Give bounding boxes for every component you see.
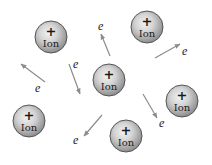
- ion: +Ion: [131, 11, 163, 43]
- electron-label: e: [73, 57, 79, 71]
- electron: e: [98, 19, 110, 56]
- electron-label: e: [159, 116, 165, 130]
- ions-layer: +Ion+Ion+Ion+Ion+Ion+Ion: [13, 11, 198, 152]
- electron-velocity-arrow-icon: [155, 44, 180, 58]
- electron-label: e: [182, 44, 188, 58]
- electron: e: [69, 57, 80, 94]
- electron-velocity-arrow-icon: [143, 94, 157, 118]
- ion: +Ion: [110, 120, 142, 152]
- positive-charge-sign: +: [121, 123, 132, 138]
- ion-electron-diagram: eeeeee +Ion+Ion+Ion+Ion+Ion+Ion: [0, 0, 212, 165]
- electron: e: [73, 115, 102, 147]
- positive-charge-sign: +: [142, 14, 153, 29]
- ion: +Ion: [93, 64, 125, 96]
- electron-velocity-arrow-icon: [101, 34, 110, 56]
- electron: e: [155, 44, 188, 58]
- ion-label: Ion: [21, 122, 38, 133]
- electron: e: [143, 94, 165, 130]
- ion-label: Ion: [43, 38, 60, 49]
- ion-label: Ion: [118, 137, 135, 148]
- ion-label: Ion: [174, 102, 191, 113]
- ion: +Ion: [35, 21, 67, 53]
- electron-velocity-arrow-icon: [84, 115, 102, 136]
- electron: e: [21, 64, 45, 95]
- ion: +Ion: [13, 105, 45, 137]
- positive-charge-sign: +: [46, 24, 57, 39]
- electron-label: e: [73, 133, 79, 147]
- ion-label: Ion: [139, 28, 156, 39]
- positive-charge-sign: +: [177, 88, 188, 103]
- electron-velocity-arrow-icon: [21, 64, 45, 82]
- electron-label: e: [98, 19, 104, 33]
- positive-charge-sign: +: [24, 108, 35, 123]
- positive-charge-sign: +: [104, 67, 115, 82]
- electron-label: e: [35, 81, 41, 95]
- ion-label: Ion: [101, 81, 118, 92]
- ion: +Ion: [166, 85, 198, 117]
